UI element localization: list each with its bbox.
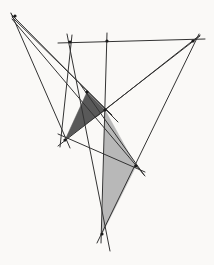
node-dark-triangle-apex: [85, 90, 88, 93]
node-top-bar-mid: [105, 39, 108, 42]
node-top-left-apex: [13, 14, 16, 17]
node-right-node: [134, 164, 137, 167]
geometry-figure: [0, 0, 214, 265]
node-bottom-apex: [100, 232, 103, 235]
node-top-bar-left: [68, 40, 71, 43]
node-top-right-apex: [191, 39, 194, 42]
node-central-hub: [103, 108, 106, 111]
node-left-node: [63, 138, 66, 141]
figure-canvas: [0, 0, 214, 265]
